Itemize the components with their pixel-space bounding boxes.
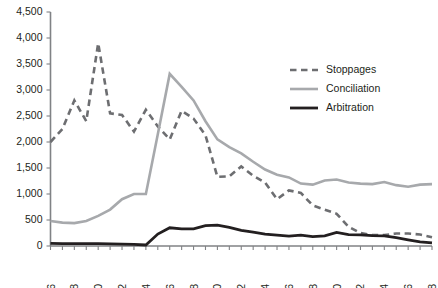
y-axis-tick-label: 2,000 [16, 135, 42, 147]
x-axis-tick-label: 1992 [354, 284, 366, 288]
x-axis-ticks: 1966196819701972197419761978198019821984… [45, 246, 438, 288]
y-axis-ticks: 05001,0001,5002,0002,5003,0003,5004,0004… [16, 5, 50, 251]
y-axis-tick-label: 4,500 [16, 5, 42, 17]
y-axis-tick-label: 3,500 [16, 57, 42, 69]
y-axis-tick-label: 3,000 [16, 83, 42, 95]
x-axis-tick-label: 1974 [140, 284, 152, 288]
x-axis-tick-label: 1982 [235, 284, 247, 288]
x-axis-tick-label: 1966 [45, 284, 57, 288]
y-axis-tick-label: 2,500 [16, 109, 42, 121]
x-axis-tick-label: 1994 [378, 284, 390, 288]
x-axis-tick-label: 1998 [426, 284, 438, 288]
x-axis-tick-label: 1972 [116, 284, 128, 288]
chart-canvas: 05001,0001,5002,0002,5003,0003,5004,0004… [0, 0, 438, 288]
y-axis-tick-label: 1,500 [16, 161, 42, 173]
chart-legend: StoppagesConciliationArbitration [290, 63, 380, 113]
y-axis-tick-label: 4,000 [16, 31, 42, 43]
series-line-arbitration [51, 225, 433, 245]
x-axis-tick-label: 1984 [259, 284, 271, 288]
y-axis-tick-label: 1,000 [16, 187, 42, 199]
x-axis-tick-label: 1980 [211, 284, 223, 288]
series-line-conciliation [51, 74, 433, 223]
x-axis-tick-label: 1986 [283, 284, 295, 288]
line-chart: 05001,0001,5002,0002,5003,0003,5004,0004… [0, 0, 438, 288]
y-axis-tick-label: 0 [37, 239, 43, 251]
legend-label-arbitration: Arbitration [326, 101, 374, 113]
y-axis-tick-label: 500 [25, 213, 43, 225]
legend-label-stoppages: Stoppages [326, 63, 376, 75]
x-axis-tick-label: 1968 [68, 284, 80, 288]
x-axis-tick-label: 1970 [92, 284, 104, 288]
x-axis-tick-label: 1976 [164, 284, 176, 288]
x-axis-tick-label: 1988 [307, 284, 319, 288]
x-axis-tick-label: 1990 [331, 284, 343, 288]
legend-label-conciliation: Conciliation [326, 82, 380, 94]
x-axis-tick-label: 1996 [402, 284, 414, 288]
x-axis-tick-label: 1978 [188, 284, 200, 288]
